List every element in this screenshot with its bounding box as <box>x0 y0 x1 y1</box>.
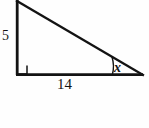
angle-label: x <box>114 61 121 75</box>
hypotenuse-line <box>17 1 143 75</box>
base-length-label: 14 <box>57 77 72 92</box>
right-triangle-figure: 5 14 x <box>0 0 149 128</box>
right-angle-marker-icon <box>18 66 27 75</box>
triangle-drawing <box>0 0 149 128</box>
vertical-leg-label: 5 <box>2 29 9 43</box>
